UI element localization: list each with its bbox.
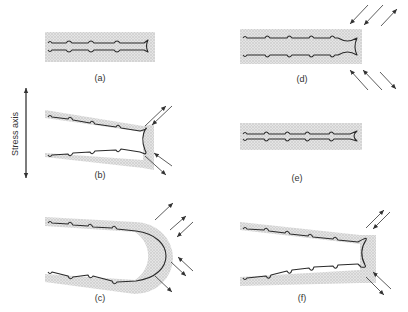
- slip-arrow-icon: [170, 216, 186, 230]
- fatigue-crack-diagram: Stress axis (a) (b) (c): [0, 0, 408, 312]
- panel-e-label: (e): [292, 173, 303, 183]
- panel-f: (f): [240, 210, 391, 303]
- slip-arrow-icon: [381, 9, 397, 26]
- panel-d: (d): [240, 5, 397, 90]
- stress-axis-label: Stress axis: [10, 111, 20, 156]
- panel-a: (a): [45, 32, 155, 83]
- slip-arrow-icon: [154, 153, 172, 166]
- plastic-zone: [240, 29, 362, 64]
- panel-c-label: (c): [95, 293, 106, 303]
- panel-b-label: (b): [95, 170, 106, 180]
- slip-arrow-icon: [366, 210, 384, 228]
- plastic-zone: [45, 32, 155, 62]
- panel-c: (c): [45, 203, 193, 303]
- panel-d-label: (d): [297, 74, 308, 84]
- panel-a-label: (a): [95, 73, 106, 83]
- slip-arrow-icon: [373, 212, 390, 229]
- slip-arrow-icon: [171, 262, 186, 276]
- plastic-zone: [45, 110, 154, 170]
- slip-arrow-icon: [145, 106, 166, 126]
- slip-arrow-icon: [363, 70, 382, 90]
- slip-arrow-icon: [380, 72, 396, 89]
- panel-b: (b): [45, 106, 172, 180]
- plastic-zone: [240, 123, 362, 150]
- slip-arrow-icon: [350, 5, 368, 24]
- plastic-zone: [45, 217, 173, 294]
- slip-arrow-icon: [155, 203, 173, 220]
- slip-arrow-icon: [152, 106, 172, 125]
- panel-e: (e): [240, 123, 362, 183]
- stress-axis: Stress axis: [10, 88, 26, 178]
- slip-arrow-icon: [178, 257, 193, 271]
- slip-arrow-icon: [364, 5, 383, 25]
- panel-f-label: (f): [298, 293, 307, 303]
- slip-arrow-icon: [177, 222, 193, 237]
